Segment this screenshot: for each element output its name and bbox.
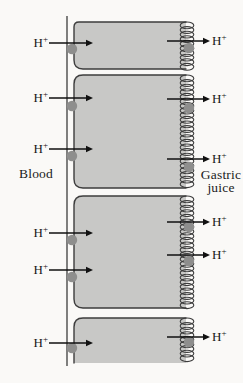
- h-ion-label-left: H+: [19, 141, 48, 157]
- gastric-juice-label-line2: juice: [199, 182, 243, 195]
- cell-body-3: [74, 196, 186, 308]
- proton-pump-blood-side: [67, 101, 77, 111]
- h-ion-label-left: H+: [19, 225, 48, 241]
- proton-pump-gastric-side: [184, 222, 194, 232]
- proton-pump-gastric-side: [184, 103, 194, 113]
- proton-pump-blood-side: [67, 235, 77, 245]
- h-ion-label-left: H+: [19, 335, 48, 351]
- cell-body-1: [74, 22, 186, 69]
- proton-pump-gastric-side: [184, 256, 194, 266]
- h-ion-label-right: H+: [212, 33, 226, 49]
- h-ion-label-left: H+: [19, 262, 48, 278]
- h-ion-label-right: H+: [212, 214, 226, 230]
- h-ion-label-right: H+: [212, 247, 226, 263]
- proton-pump-gastric-side: [184, 43, 194, 53]
- gastric-juice-label: Gastric juice: [199, 169, 243, 194]
- h-ion-label-right: H+: [212, 329, 226, 345]
- proton-pump-blood-side: [67, 272, 77, 282]
- cell-body-4: [74, 318, 186, 363]
- h-ion-label-right: H+: [212, 151, 226, 167]
- h-ion-arrow-out-head: [203, 252, 210, 258]
- h-ion-label-right: H+: [212, 91, 226, 107]
- proton-pump-gastric-side: [184, 337, 194, 347]
- proton-pump-blood-side: [67, 44, 77, 54]
- h-ion-arrow-out-head: [203, 334, 210, 340]
- h-ion-arrow-out-head: [203, 38, 210, 44]
- h-ion-arrow-out-head: [203, 96, 210, 102]
- proton-pump-blood-side: [67, 343, 77, 353]
- gastric-cell-figure: Blood Gastric juice H+H+H+H+H+H+H+H+H+H+…: [0, 0, 243, 383]
- blood-label: Blood: [15, 166, 57, 182]
- h-ion-arrow-out-head: [203, 219, 210, 225]
- h-ion-arrow-out-head: [203, 156, 210, 162]
- proton-pump-blood-side: [67, 151, 77, 161]
- h-ion-label-left: H+: [19, 90, 48, 106]
- cell-body-2: [74, 75, 186, 188]
- proton-pump-gastric-side: [184, 162, 194, 172]
- h-ion-label-left: H+: [19, 35, 48, 51]
